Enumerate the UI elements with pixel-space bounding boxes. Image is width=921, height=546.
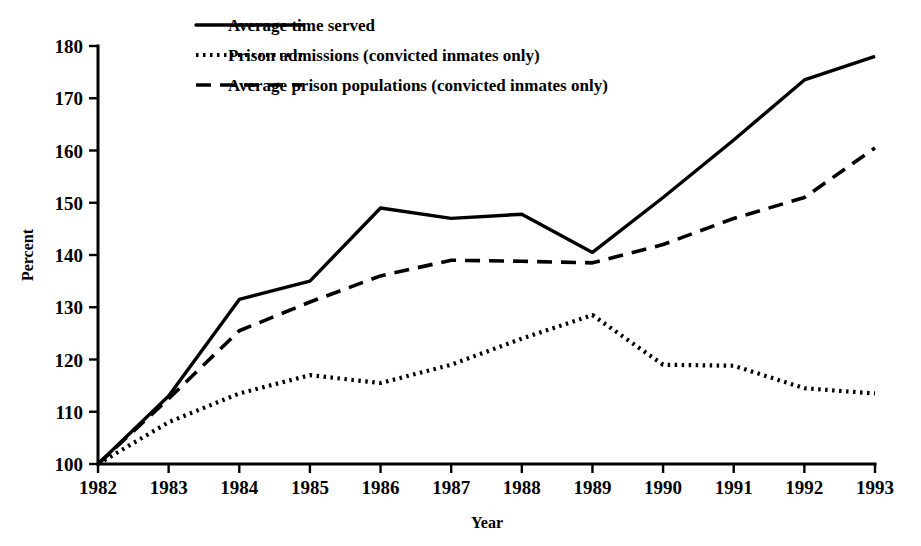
x-tick-label: 1990 <box>644 477 682 498</box>
x-tick-label: 1986 <box>362 477 400 498</box>
y-tick-label: 100 <box>55 454 84 475</box>
x-axis-title: Year <box>471 514 503 531</box>
data-series-group <box>98 56 875 464</box>
chart-legend: Average time servedPrison admissions (co… <box>196 16 608 95</box>
series-dashed <box>98 148 875 464</box>
series-dotted <box>98 315 875 464</box>
chart-canvas: 100110120130140150160170180 198219831984… <box>0 0 921 546</box>
x-tick-label: 1993 <box>856 477 894 498</box>
x-tick-label: 1983 <box>150 477 188 498</box>
series-solid <box>98 56 875 464</box>
y-tick-label: 160 <box>55 141 84 162</box>
x-tick-label: 1987 <box>432 477 471 498</box>
y-tick-label: 180 <box>55 36 84 57</box>
y-tick-label: 110 <box>56 402 83 423</box>
y-tick-label: 170 <box>55 88 84 109</box>
y-tick-label: 150 <box>55 193 84 214</box>
x-tick-label: 1982 <box>79 477 117 498</box>
x-tick-label: 1989 <box>573 477 611 498</box>
y-axis-tick-labels: 100110120130140150160170180 <box>55 36 84 475</box>
y-axis-title: Percent <box>19 228 36 281</box>
legend-label: Average prison populations (convicted in… <box>228 76 608 95</box>
y-tick-label: 140 <box>55 245 84 266</box>
y-tick-label: 120 <box>55 350 84 371</box>
x-tick-label: 1985 <box>291 477 329 498</box>
x-axis-tick-labels: 1982198319841985198619871988198919901991… <box>79 477 894 498</box>
x-tick-label: 1984 <box>220 477 259 498</box>
x-tick-label: 1988 <box>503 477 541 498</box>
x-tick-label: 1991 <box>715 477 753 498</box>
legend-label: Prison admissions (convicted inmates onl… <box>228 46 540 65</box>
y-tick-label: 130 <box>55 297 84 318</box>
legend-label: Average time served <box>228 16 375 35</box>
line-chart: 100110120130140150160170180 198219831984… <box>0 0 921 546</box>
x-tick-label: 1992 <box>785 477 823 498</box>
